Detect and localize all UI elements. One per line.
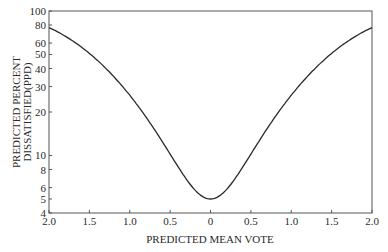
y-tick-label: 100 bbox=[30, 5, 47, 17]
y-tick-label: 30 bbox=[35, 81, 47, 93]
y-axis-title-line2: DISSATISFIED(PPD) bbox=[21, 62, 34, 161]
y-tick-label: 40 bbox=[35, 63, 47, 75]
x-tick-label: 2.0 bbox=[42, 215, 56, 227]
y-axis-title: PREDICTED PERCENT DISSATISFIED(PPD) bbox=[10, 56, 34, 168]
plot-frame bbox=[49, 11, 372, 213]
x-tick-label: 1.0 bbox=[123, 215, 137, 227]
x-tick-label: 1.5 bbox=[83, 215, 97, 227]
x-tick-label: 1.0 bbox=[284, 215, 298, 227]
x-tick-label: 0.5 bbox=[244, 215, 258, 227]
y-tick-label: 80 bbox=[35, 19, 47, 31]
y-tick-label: 20 bbox=[35, 106, 47, 118]
y-tick-label: 5 bbox=[41, 193, 47, 205]
x-tick-label: 1.5 bbox=[325, 215, 339, 227]
y-tick-label: 8 bbox=[41, 164, 47, 176]
y-tick-label: 10 bbox=[35, 149, 47, 161]
x-axis-title: PREDICTED MEAN VOTE bbox=[146, 233, 274, 245]
y-tick-label: 6 bbox=[41, 182, 47, 194]
x-tick-label: 2.0 bbox=[365, 215, 379, 227]
ppd-chart: 100806050403020108654 2.01.51.00.500.51.… bbox=[0, 0, 388, 252]
x-tick-label: 0 bbox=[208, 215, 214, 227]
ppd-curve bbox=[49, 28, 372, 199]
y-tick-label: 60 bbox=[35, 37, 47, 49]
y-tick-label: 50 bbox=[35, 48, 47, 60]
x-tick-label: 0.5 bbox=[163, 215, 177, 227]
